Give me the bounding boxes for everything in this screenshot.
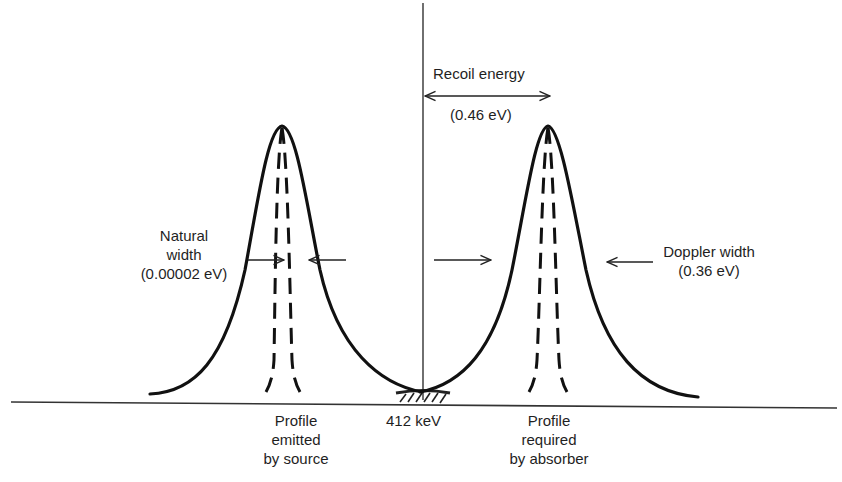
recoil-energy-value-text: (0.46 eV) xyxy=(450,105,512,124)
recoil-energy-value: (0.46 eV) xyxy=(450,105,512,124)
natural-width-label: Natural width (0.00002 eV) xyxy=(124,226,244,283)
recoil-energy-text: Recoil energy xyxy=(433,64,525,83)
source-profile-label: Profile emitted by source xyxy=(254,411,338,468)
absorber-profile-line2: required xyxy=(497,430,601,449)
natural-width-line3: (0.00002 eV) xyxy=(124,264,244,283)
energy-axis xyxy=(11,402,837,408)
natural-width-line2: width xyxy=(124,245,244,264)
doppler-width-label: Doppler width (0.36 eV) xyxy=(653,242,765,280)
absorber-profile-line3: by absorber xyxy=(497,449,601,468)
center-energy-label: 412 keV xyxy=(386,411,441,430)
doppler-width-line2: (0.36 eV) xyxy=(653,261,765,280)
absorber-profile-line1: Profile xyxy=(497,411,601,430)
center-energy-text: 412 keV xyxy=(386,411,441,430)
absorber-natural-profile xyxy=(529,128,567,392)
source-profile-line2: emitted xyxy=(254,430,338,449)
recoil-energy-label: Recoil energy xyxy=(433,64,525,83)
natural-width-line1: Natural xyxy=(124,226,244,245)
source-profile-line1: Profile xyxy=(254,411,338,430)
absorber-profile-label: Profile required by absorber xyxy=(497,411,601,468)
doppler-width-line1: Doppler width xyxy=(653,242,765,261)
source-profile-line3: by source xyxy=(254,449,338,468)
